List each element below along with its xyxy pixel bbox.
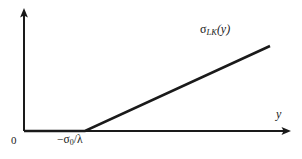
sigma-lk-figure: 0 −σ0/λ y σLK(y) [0, 0, 302, 159]
x-intercept-label: −σ0/λ [57, 134, 82, 147]
x-axis-variable-label: y [276, 108, 281, 120]
threshold-minus-sigma: −σ [57, 133, 70, 145]
curve-subscript-lk: LK [206, 27, 216, 37]
plot-canvas [0, 0, 302, 159]
curve-function-label: σLK(y) [200, 23, 230, 37]
curve-argument: (y) [217, 22, 230, 36]
origin-label: 0 [11, 135, 17, 146]
sigma-lk-curve [24, 46, 270, 131]
threshold-over-lambda: /λ [74, 133, 83, 145]
curve-polyline [24, 46, 270, 131]
y-axis [20, 8, 28, 131]
